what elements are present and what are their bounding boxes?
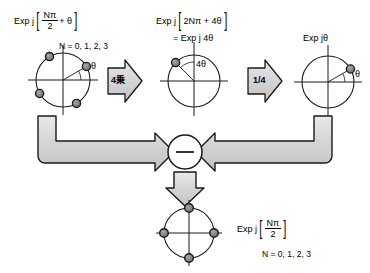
- formula-bottom-numerator: Nπ: [265, 218, 282, 229]
- formula-middle-line2: = Exp j 4θ: [173, 34, 213, 43]
- operator-quarter-label: 1/4: [253, 76, 266, 85]
- bracket-close-bottom: ]: [284, 218, 287, 238]
- angle-label-theta-left: θ: [91, 62, 96, 71]
- unit-circle-middle: [160, 42, 228, 116]
- bracket-close-left: ]: [74, 10, 77, 30]
- formula-middle-exp: Exp j: [156, 17, 176, 26]
- arrow-down-result: [166, 172, 204, 206]
- bracket-close-middle: ]: [224, 10, 227, 30]
- operator-power4-label: 4乗: [111, 76, 125, 85]
- arrow-feedback-left: [38, 116, 174, 171]
- formula-bottom-exp: Exp j: [237, 225, 257, 234]
- formula-left: Exp j [ Nπ 2 + θ ]: [14, 10, 79, 32]
- formula-left-numerator: Nπ: [42, 10, 59, 21]
- formula-bottom-denominator: 2: [265, 229, 282, 240]
- formula-bottom-n-values: N = 0, 1, 2, 3: [262, 250, 311, 259]
- subtract-node: [168, 135, 202, 169]
- bracket-open-left: [: [36, 10, 39, 30]
- formula-left-plus-theta: + θ: [59, 17, 72, 26]
- bracket-open-middle: [: [178, 10, 181, 30]
- diagram-canvas: Exp j [ Nπ 2 + θ ] N = 0, 1, 2, 3 Exp j …: [0, 0, 370, 273]
- formula-middle-body: 2Nπ + 4θ: [184, 17, 222, 26]
- unit-circle-bottom: [156, 200, 222, 266]
- unit-circle-right: [294, 45, 362, 118]
- formula-middle-line1: Exp j [ 2Nπ + 4θ ]: [156, 11, 228, 31]
- bracket-open-bottom: [: [259, 218, 262, 238]
- formula-bottom-fraction: Nπ 2: [265, 218, 282, 240]
- constellation-dots-right: [346, 65, 354, 73]
- formula-left-n-values: N = 0, 1, 2, 3: [59, 42, 108, 51]
- unit-circle-left: [28, 45, 98, 115]
- arrow-feedback-right: [196, 116, 332, 171]
- constellation-dots-middle: [172, 59, 180, 67]
- formula-left-exp: Exp j: [14, 17, 34, 26]
- angle-label-theta-right: θ: [355, 70, 360, 79]
- formula-right: Exp jθ: [303, 34, 328, 43]
- angle-label-four-theta: 4θ: [196, 60, 206, 69]
- formula-left-denominator: 2: [42, 21, 59, 32]
- formula-bottom: Exp j [ Nπ 2 ]: [237, 218, 288, 240]
- formula-left-fraction: Nπ 2: [42, 10, 59, 32]
